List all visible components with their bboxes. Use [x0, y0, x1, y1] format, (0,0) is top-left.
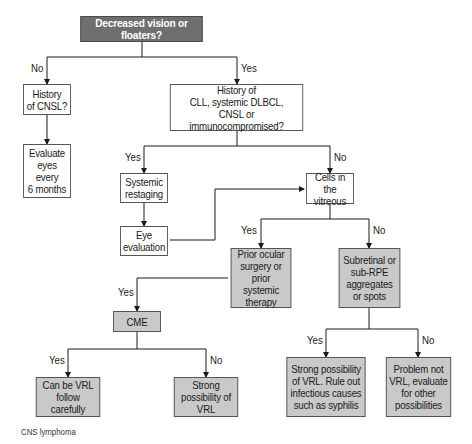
- edge-label-start-no: No: [31, 62, 43, 74]
- node-history-cll: History of CLL, systemic DLBCL, CNSL or …: [170, 84, 303, 131]
- edge-label-sub-yes: Yes: [307, 334, 323, 346]
- edge-label-cme-no: No: [210, 354, 222, 366]
- node-strong-vrl: Strong possibility of VRL: [174, 377, 238, 417]
- edge-label-cme-yes: Yes: [49, 354, 65, 366]
- flowchart: Decreased vision or floaters? History of…: [0, 0, 472, 444]
- node-start: Decreased vision or floaters?: [80, 16, 202, 42]
- node-can-be-vrl: Can be VRL follow carefully: [36, 377, 100, 417]
- figure-caption: CNS lymphoma: [21, 427, 76, 437]
- edge-label-cll-no: No: [334, 151, 346, 163]
- edge-label-cells-no: No: [373, 224, 385, 236]
- node-cme: CME: [113, 311, 161, 332]
- node-eye-evaluation: Eye evaluation: [120, 226, 168, 256]
- node-cells-vitreous: Cells in the vitreous: [306, 173, 354, 204]
- edge-label-cll-yes: Yes: [125, 151, 141, 163]
- edge-label-start-yes: Yes: [241, 62, 257, 74]
- node-systemic-restaging: Systemic restaging: [120, 173, 168, 203]
- node-prior-ocular: Prior ocular surgery or prior systemic t…: [231, 248, 292, 308]
- node-strong-rule-out: Strong possibility of VRL. Rule out infe…: [286, 357, 365, 417]
- node-evaluate-eyes: Evaluate eyes every 6 months: [23, 144, 71, 198]
- edge-label-sub-no: No: [422, 334, 434, 346]
- node-subretinal: Subretinal or sub-RPE aggregates or spot…: [339, 248, 401, 308]
- node-history-cnsl: History of CNSL?: [23, 84, 71, 115]
- edge-label-prior-yes: Yes: [118, 286, 134, 298]
- edge-label-cells-yes: Yes: [241, 224, 257, 236]
- node-problem-not-vrl: Problem not VRL, evaluate for other poss…: [386, 357, 451, 417]
